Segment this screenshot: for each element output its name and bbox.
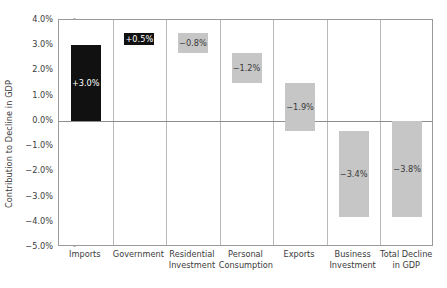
bar-total-decline-in-gdp[interactable]: −3.8% (392, 121, 422, 217)
x-axis-label-government: Government (112, 249, 166, 260)
y-axis-tick-label: −3.0% (25, 191, 53, 201)
y-axis-tick-label: −1.0% (25, 140, 53, 150)
x-axis-label-line: Investment (165, 260, 219, 271)
bar-residential-investment[interactable]: −0.8% (178, 33, 208, 53)
x-axis-label-line: Consumption (219, 260, 273, 271)
x-axis-label-line: Investment (326, 260, 380, 271)
x-axis-label-line: Government (112, 249, 166, 260)
bar-value-label: −3.8% (392, 164, 422, 174)
x-axis-label-residential-investment: ResidentialInvestment (165, 249, 219, 270)
y-axis-tick-label: 1.0% (32, 90, 53, 100)
x-axis-label-personal-consumption: PersonalConsumption (219, 249, 273, 270)
y-axis-tick-label: 0.0% (32, 115, 53, 125)
x-axis-label-total-decline-in-gdp: Total Declinein GDP (379, 249, 433, 270)
x-axis-category-labels: ImportsGovernmentResidentialInvestmentPe… (58, 249, 433, 287)
y-axis-tick-label: 2.0% (32, 64, 53, 74)
x-axis-label-line: Personal (219, 249, 273, 260)
bar-business-investment[interactable]: −3.4% (339, 131, 369, 217)
x-axis-label-imports: Imports (58, 249, 112, 260)
bar-exports[interactable]: −1.9% (285, 83, 315, 131)
plot-inner: +3.0%+0.5%−0.8%−1.2%−1.9%−3.4%−3.8% (59, 20, 432, 245)
y-axis-tick-label: −2.0% (25, 165, 53, 175)
bar-value-label: +0.5% (124, 34, 154, 44)
category-gridline (113, 20, 114, 245)
bar-value-label: +3.0% (71, 78, 101, 88)
y-axis-title: Contribution to Decline in GDP (0, 0, 17, 288)
category-gridline (327, 20, 328, 245)
x-axis-label-line: Residential (165, 249, 219, 260)
bar-imports[interactable]: +3.0% (71, 45, 101, 121)
category-gridline (273, 20, 274, 245)
bar-value-label: −0.8% (178, 38, 208, 48)
bar-personal-consumption[interactable]: −1.2% (232, 53, 262, 83)
x-axis-label-line: Total Decline (379, 249, 433, 260)
bar-government[interactable]: +0.5% (124, 33, 154, 46)
y-axis-tick-labels: 4.0%3.0%2.0%1.0%0.0%−1.0%−2.0%−3.0%−4.0%… (18, 0, 58, 288)
x-axis-label-exports: Exports (272, 249, 326, 260)
plot-area: +3.0%+0.5%−0.8%−1.2%−1.9%−3.4%−3.8% (58, 19, 433, 246)
y-axis-tick-label: −5.0% (25, 241, 53, 251)
x-axis-label-line: Exports (272, 249, 326, 260)
bar-value-label: −3.4% (339, 169, 369, 179)
y-axis-tick-label: 3.0% (32, 39, 53, 49)
x-axis-label-line: in GDP (379, 260, 433, 271)
bar-value-label: −1.2% (232, 63, 262, 73)
y-axis-tick-label: 4.0% (32, 14, 53, 24)
category-gridline (380, 20, 381, 245)
y-axis-tick-label: −4.0% (25, 216, 53, 226)
category-gridline (220, 20, 221, 245)
zero-baseline (59, 121, 432, 122)
waterfall-chart: Contribution to Decline in GDP 4.0%3.0%2… (0, 0, 447, 288)
x-axis-label-line: Business (326, 249, 380, 260)
category-gridline (166, 20, 167, 245)
x-axis-label-line: Imports (58, 249, 112, 260)
bar-value-label: −1.9% (285, 102, 315, 112)
x-axis-label-business-investment: BusinessInvestment (326, 249, 380, 270)
